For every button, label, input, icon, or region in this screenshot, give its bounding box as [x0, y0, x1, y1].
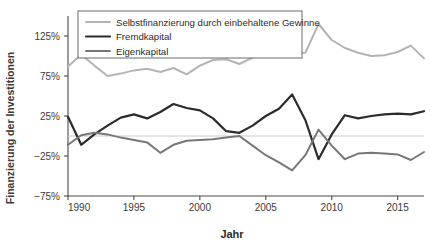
x-axis-tick-label: 2010: [321, 202, 344, 213]
x-axis-ticks: [68, 196, 398, 200]
y-axis-tick-labels: −75%−25%25%75%125%: [34, 31, 60, 202]
x-axis-tick-label: 2005: [255, 202, 278, 213]
x-axis-tick-labels: 199019952000200520102015: [68, 202, 409, 213]
series-line: [68, 94, 424, 159]
y-axis-title: Finanzierung der Investitionen: [4, 52, 16, 204]
x-axis-tick-label: 2015: [387, 202, 410, 213]
x-axis-tick-label: 1995: [123, 202, 146, 213]
legend-label: Eigenkapital: [116, 46, 168, 57]
x-axis-title: Jahr: [220, 228, 244, 240]
y-axis-tick-label: −25%: [34, 151, 60, 162]
chart-container: Finanzierung der Investitionen Jahr −75%…: [0, 0, 430, 250]
x-axis-tick-label: 2000: [189, 202, 212, 213]
y-axis-tick-label: 25%: [40, 111, 60, 122]
chart-legend: Selbstfinanzierung durch einbehaltene Ge…: [78, 11, 320, 58]
y-axis-tick-label: 75%: [40, 71, 60, 82]
legend-label: Fremdkapital: [116, 31, 171, 42]
y-axis-tick-label: 125%: [34, 31, 60, 42]
line-chart: Finanzierung der Investitionen Jahr −75%…: [0, 0, 430, 250]
legend-label: Selbstfinanzierung durch einbehaltene Ge…: [116, 17, 320, 28]
y-axis-tick-label: −75%: [34, 191, 60, 202]
x-axis-tick-label: 1990: [68, 202, 91, 213]
